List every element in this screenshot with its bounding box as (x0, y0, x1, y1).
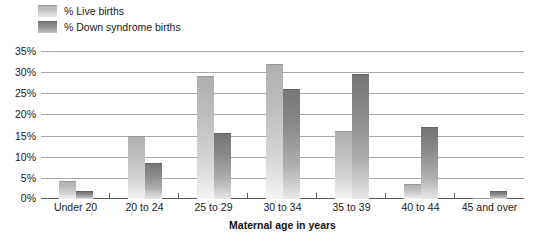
x-axis-title: Maternal age in years (41, 219, 524, 231)
x-axis-tick-label: 45 and over (455, 201, 524, 214)
bar-group (248, 51, 317, 199)
x-axis-tick-label: 30 to 34 (248, 201, 317, 214)
y-axis-tick-label: 30% (15, 67, 36, 78)
x-axis-tick-labels: Under 2020 to 2425 to 2930 to 3435 to 39… (41, 201, 524, 214)
bar-down-syndrome-births (145, 163, 162, 199)
x-axis-tick-label: 20 to 24 (110, 201, 179, 214)
x-axis-tick-label: 35 to 39 (317, 201, 386, 214)
bar-down-syndrome-births (352, 74, 369, 199)
bar-down-syndrome-births (421, 127, 438, 199)
legend-item-down-syndrome-births: % Down syndrome births (38, 20, 181, 33)
y-axis-tick-label: 35% (15, 46, 36, 57)
bar-live-births (473, 198, 490, 199)
y-axis-tick-label: 0% (21, 193, 36, 204)
bar-live-births (59, 181, 76, 199)
bar-down-syndrome-births (490, 191, 507, 199)
legend-label-down-syndrome-births: % Down syndrome births (64, 21, 181, 33)
bar-group (455, 51, 524, 199)
x-axis-tick-label: 40 to 44 (386, 201, 455, 214)
bar-down-syndrome-births (214, 133, 231, 199)
bar-live-births (404, 184, 421, 199)
bar-live-births (128, 136, 145, 199)
legend-label-live-births: % Live births (64, 5, 124, 17)
bar-group (386, 51, 455, 199)
bar-down-syndrome-births (76, 191, 93, 199)
legend-swatch-icon-down-syndrome-births (38, 21, 57, 33)
bar-group (179, 51, 248, 199)
bar-groups (41, 51, 524, 199)
x-axis-tick-label: 25 to 29 (179, 201, 248, 214)
y-axis-tick-label: 5% (21, 173, 36, 184)
x-axis-tick-label: Under 20 (41, 201, 110, 214)
legend-item-live-births: % Live births (38, 4, 181, 17)
plot-area: 0%5%10%15%20%25%30%35% (41, 51, 524, 199)
bar-down-syndrome-births (283, 89, 300, 199)
bar-live-births (197, 76, 214, 199)
bar-live-births (335, 131, 352, 199)
legend-swatch-icon-live-births (38, 5, 57, 17)
bar-chart: % Live births % Down syndrome births 0%5… (0, 0, 534, 245)
bar-group (110, 51, 179, 199)
bar-live-births (266, 64, 283, 199)
chart-legend: % Live births % Down syndrome births (38, 4, 181, 33)
bar-group (41, 51, 110, 199)
bar-group (317, 51, 386, 199)
y-axis-tick-label: 25% (15, 88, 36, 99)
y-axis-tick-label: 20% (15, 109, 36, 120)
y-axis-tick-label: 15% (15, 131, 36, 142)
y-axis-tick-label: 10% (15, 152, 36, 163)
